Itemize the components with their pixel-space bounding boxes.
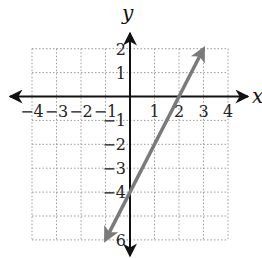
coordinate-plane: −4−3−2−1123421−1−2−3−46 x y: [0, 0, 262, 258]
y-tick-label: −2: [102, 135, 126, 154]
x-tick-label: −3: [45, 102, 69, 121]
y-tick-label: 6: [116, 231, 126, 250]
x-tick-label: 1: [149, 102, 159, 121]
y-axis-label: y: [121, 1, 134, 25]
x-tick-label: 4: [223, 102, 233, 121]
x-tick-label: −2: [69, 102, 93, 121]
axes: [10, 33, 248, 256]
x-axis-label: x: [252, 84, 262, 108]
x-tick-label: −4: [20, 102, 44, 121]
x-tick-label: 3: [198, 102, 208, 121]
y-tick-label: −4: [102, 183, 126, 202]
y-tick-label: −1: [102, 111, 126, 130]
y-tick-label: −3: [102, 159, 126, 178]
y-tick-label: 2: [116, 40, 126, 59]
y-tick-label: 1: [116, 64, 126, 83]
